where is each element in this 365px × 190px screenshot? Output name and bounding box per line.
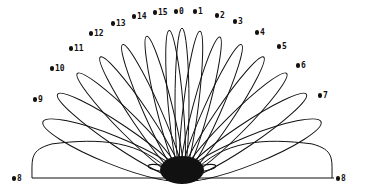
- beam-label-text: 7: [323, 91, 328, 100]
- beam-label-11: 11: [69, 45, 84, 53]
- beam-label-10: 10: [50, 65, 65, 73]
- beam-pattern-diagram: [0, 0, 365, 190]
- beam-label-text: 15: [158, 8, 168, 17]
- beam-label-text: 8: [17, 174, 22, 183]
- beam-label-6: 6: [296, 62, 306, 70]
- beam-label-text: 8: [341, 174, 346, 183]
- beam-label-text: 5: [282, 42, 287, 51]
- beam-label-8-right: 8: [336, 175, 346, 183]
- beam-label-text: 1: [198, 7, 203, 16]
- convergence-hub: [160, 156, 204, 184]
- beam-label-5: 5: [277, 43, 287, 51]
- beam-label-8-left: 8: [12, 175, 22, 183]
- bullet-icon: [132, 14, 136, 19]
- beam-label-9: 9: [33, 96, 43, 104]
- beam-label-text: 13: [116, 19, 126, 28]
- bullet-icon: [193, 9, 197, 14]
- beam-label-text: 12: [94, 29, 104, 38]
- bullet-icon: [215, 13, 219, 18]
- beam-label-12: 12: [89, 30, 104, 38]
- bullet-icon: [255, 30, 259, 35]
- bullet-icon: [296, 63, 300, 68]
- beam-label-text: 4: [260, 28, 265, 37]
- beam-label-text: 6: [301, 61, 306, 70]
- beam-label-14: 14: [132, 13, 147, 21]
- bullet-icon: [336, 176, 340, 181]
- bullet-icon: [277, 44, 281, 49]
- bullet-icon: [12, 176, 16, 181]
- beam-label-1: 1: [193, 8, 203, 16]
- beam-label-text: 11: [74, 44, 84, 53]
- beam-label-2: 2: [215, 12, 225, 20]
- bullet-icon: [33, 97, 37, 102]
- beam-label-0: 0: [174, 8, 184, 16]
- beam-label-text: 0: [179, 7, 184, 16]
- beam-label-4: 4: [255, 29, 265, 37]
- beam-label-text: 10: [55, 64, 65, 73]
- bullet-icon: [318, 93, 322, 98]
- beam-label-3: 3: [233, 18, 243, 26]
- beam-label-text: 3: [238, 17, 243, 26]
- beam-label-7: 7: [318, 92, 328, 100]
- bullet-icon: [50, 66, 54, 71]
- bullet-icon: [153, 10, 157, 15]
- beam-label-text: 9: [38, 95, 43, 104]
- bullet-icon: [69, 46, 73, 51]
- bullet-icon: [111, 21, 115, 26]
- beam-label-text: 14: [137, 12, 147, 21]
- beam-label-text: 2: [220, 11, 225, 20]
- bullet-icon: [233, 19, 237, 24]
- bullet-icon: [174, 9, 178, 14]
- beam-label-15: 15: [153, 9, 168, 17]
- beam-label-13: 13: [111, 20, 126, 28]
- bullet-icon: [89, 31, 93, 36]
